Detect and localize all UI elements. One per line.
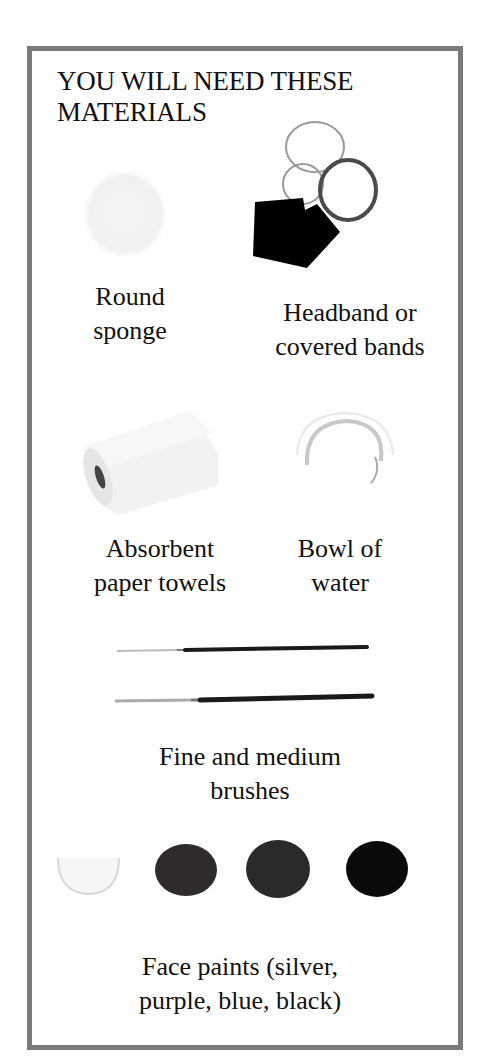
label-round-sponge: Round sponge (60, 280, 200, 348)
label-brushes: Fine and medium brushes (120, 740, 380, 808)
headband-image (245, 110, 445, 270)
black-paint-icon (346, 841, 408, 897)
purple-paint-icon (155, 844, 217, 896)
label-face-paints: Face paints (silver, purple, blue, black… (60, 950, 420, 1018)
label-headband: Headband or covered bands (255, 296, 445, 364)
paper-towels-image (80, 405, 220, 515)
label-bowl-of-water: Bowl of water (270, 532, 410, 600)
brushes-image (115, 640, 380, 710)
silver-paint-icon (58, 858, 119, 894)
sponge-image (80, 168, 170, 260)
bowl-image (285, 405, 405, 500)
blue-paint-icon (246, 840, 310, 898)
face-paints-image (55, 838, 430, 908)
label-paper-towels: Absorbent paper towels (70, 532, 250, 600)
